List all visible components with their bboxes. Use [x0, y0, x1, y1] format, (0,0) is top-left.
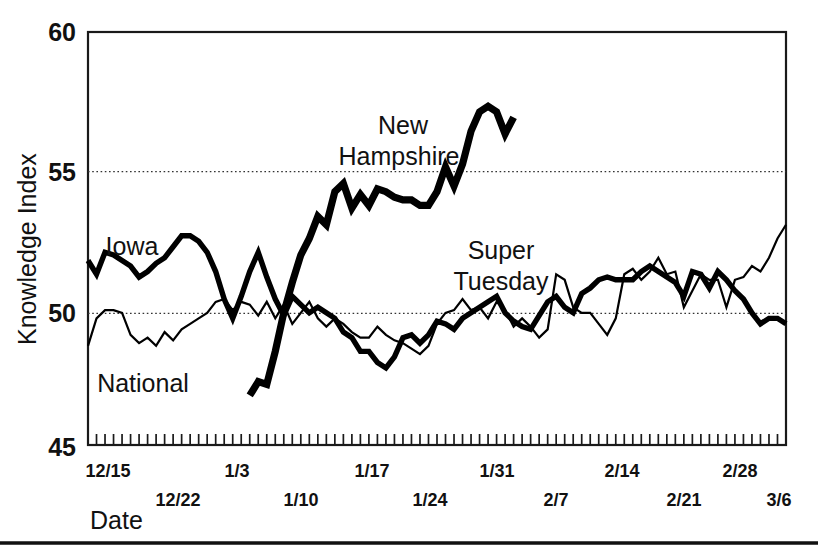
chart-figure: 60 55 50 45 Knowledge Index New Hampshir… [0, 0, 818, 558]
x-tick-label: 2/28 [722, 461, 757, 481]
x-tick-label: 1/17 [354, 461, 389, 481]
x-tick-label: 2/14 [604, 461, 639, 481]
x-tick-label: 3/6 [766, 490, 791, 510]
ytick-label-60: 60 [48, 18, 76, 46]
ytick-label-50: 50 [48, 299, 76, 327]
x-tick-label: 12/22 [155, 490, 200, 510]
x-tick-label: 1/24 [412, 490, 447, 510]
x-tick-label: 2/21 [666, 490, 701, 510]
annotation-hampshire: Hampshire [339, 142, 460, 170]
annotation-tuesday: Tuesday [454, 267, 549, 295]
knowledge-index-line-chart: 60 55 50 45 Knowledge Index New Hampshir… [0, 0, 818, 558]
ytick-label-55: 55 [48, 158, 76, 186]
y-axis-title: Knowledge Index [13, 153, 41, 345]
annotation-super: Super [468, 236, 535, 264]
annotation-national: National [97, 369, 189, 397]
x-tick-label: 1/3 [224, 461, 249, 481]
x-axis-title: Date [90, 506, 143, 534]
series-line-iowa [88, 236, 786, 368]
ytick-label-45: 45 [48, 433, 76, 461]
x-tick-label: 12/15 [85, 461, 130, 481]
x-tick-label: 1/31 [479, 461, 514, 481]
x-axis-tick-labels: 12/151/31/171/312/142/2812/221/101/242/7… [85, 461, 791, 510]
annotation-new: New [378, 111, 429, 139]
x-tick-label: 2/7 [543, 490, 568, 510]
x-tick-label: 1/10 [283, 490, 318, 510]
annotation-iowa: Iowa [106, 232, 159, 260]
x-axis-ticks [88, 434, 786, 445]
